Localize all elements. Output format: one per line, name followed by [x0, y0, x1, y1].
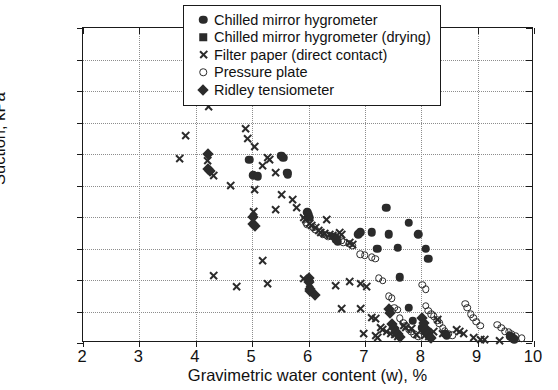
legend-item-label: Pressure plate	[214, 64, 308, 80]
y-axis-tick-right	[526, 186, 532, 187]
gridline-horizontal	[83, 154, 532, 155]
data-point	[283, 170, 292, 179]
data-point	[390, 330, 399, 339]
data-point	[204, 166, 215, 177]
data-point	[388, 295, 396, 303]
x-axis-tick-top	[478, 28, 479, 34]
data-point	[345, 238, 354, 247]
data-point	[421, 326, 432, 337]
y-axis-tick-right	[526, 60, 532, 61]
cross-icon	[199, 50, 208, 59]
gridline-horizontal	[83, 186, 532, 187]
data-point	[316, 228, 325, 237]
legend-marker-icon	[192, 12, 214, 28]
data-point	[317, 228, 325, 236]
x-axis-tick-top	[83, 28, 84, 34]
data-point	[331, 235, 340, 244]
data-point	[508, 330, 516, 338]
data-point	[494, 321, 502, 329]
data-point	[209, 271, 218, 280]
data-point	[202, 163, 213, 174]
y-axis-tick-right	[526, 154, 532, 155]
x-axis-tick	[196, 341, 197, 347]
data-point	[399, 321, 408, 330]
data-point	[277, 151, 286, 160]
data-point	[392, 329, 403, 340]
data-point	[248, 218, 259, 229]
gridline-horizontal	[83, 280, 532, 281]
data-point	[426, 333, 437, 344]
y-axis-tick	[77, 91, 83, 92]
data-point	[354, 230, 363, 239]
y-axis-tick-right	[526, 123, 532, 124]
data-point	[203, 156, 212, 165]
data-point	[385, 293, 393, 301]
data-point	[304, 221, 312, 229]
data-point	[441, 329, 450, 338]
legend-item-label: Chilled mirror hygrometer	[214, 12, 378, 28]
data-point	[459, 329, 468, 338]
data-point	[510, 335, 519, 344]
data-point	[469, 314, 477, 322]
data-point	[331, 281, 340, 290]
data-point	[407, 328, 415, 336]
y-axis-tick-right	[526, 91, 532, 92]
x-axis-tick-label: 8	[400, 347, 440, 366]
x-axis-tick-label: 7	[344, 347, 384, 366]
data-point	[417, 313, 428, 324]
data-point	[442, 331, 451, 340]
data-point	[320, 229, 329, 238]
legend-item: Chilled mirror hygrometer (drying)	[192, 29, 432, 47]
y-axis-tick	[77, 312, 83, 313]
data-point	[373, 333, 382, 342]
gridline-vertical	[139, 28, 140, 341]
data-point	[258, 256, 267, 265]
data-point	[376, 323, 385, 332]
legend-item: Filter paper (direct contact)	[192, 46, 432, 64]
legend-marker-icon	[192, 64, 214, 80]
data-point	[384, 230, 393, 239]
y-axis-title: Suction, kPa	[0, 92, 9, 185]
data-point	[382, 327, 391, 336]
data-point	[386, 318, 397, 329]
x-axis-tick-top	[139, 28, 140, 34]
data-point	[402, 322, 410, 330]
data-point	[288, 195, 297, 204]
data-point	[430, 312, 438, 320]
x-axis-tick	[83, 341, 84, 347]
gridline-horizontal	[83, 312, 532, 313]
data-point	[310, 289, 321, 300]
data-point	[249, 220, 260, 231]
y-axis-tick	[77, 186, 83, 187]
data-point	[181, 131, 190, 140]
data-point	[433, 315, 442, 324]
data-point	[283, 169, 292, 178]
open-circle-icon	[199, 69, 207, 77]
data-point	[319, 231, 327, 239]
data-point	[401, 323, 410, 332]
data-point	[411, 330, 419, 338]
y-axis-tick	[77, 154, 83, 155]
data-point	[394, 306, 402, 314]
x-axis-tick-label: 5	[231, 347, 271, 366]
data-point	[332, 234, 340, 242]
y-axis-tick-right	[526, 28, 532, 29]
x-axis-tick-label: 2	[62, 347, 102, 366]
legend-item-label: Ridley tensiometer	[214, 82, 334, 98]
data-point	[243, 134, 252, 143]
legend-item: Ridley tensiometer	[192, 81, 432, 99]
data-point	[337, 230, 346, 239]
y-axis-tick	[77, 123, 83, 124]
data-point	[399, 319, 407, 327]
data-point	[367, 228, 376, 237]
data-point	[334, 235, 342, 243]
y-axis-tick-right	[526, 343, 532, 344]
data-point	[393, 332, 402, 341]
data-point	[464, 304, 472, 312]
data-point	[506, 332, 515, 341]
y-axis-tick	[77, 60, 83, 61]
data-point	[518, 335, 526, 343]
data-point	[375, 275, 383, 283]
y-axis-tick	[77, 217, 83, 218]
data-point	[452, 325, 461, 334]
